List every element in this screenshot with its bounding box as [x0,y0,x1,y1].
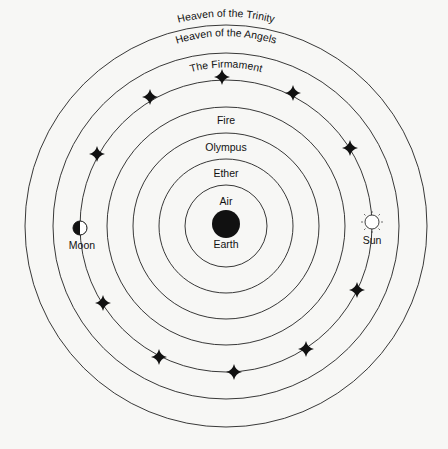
label-angels: Heaven of the Angels [174,26,278,46]
label-air: Air [220,195,233,207]
star-icon [349,282,365,298]
earth-icon [212,210,240,238]
svg-text:The Firmament: The Firmament [188,57,263,74]
label-sun: Sun [363,234,382,246]
star-icon [142,89,158,105]
star-icon [285,85,301,101]
star-icon [298,341,314,357]
moon-icon [73,221,87,235]
label-trinity: Heaven of the Trinity [176,7,277,25]
label-moon: Moon [69,239,95,251]
cosmos-diagram: Heaven of the Trinity Heaven of the Ange… [0,0,448,449]
star-icon [226,364,242,380]
svg-text:Heaven of the Trinity: Heaven of the Trinity [176,7,277,25]
svg-text:Heaven of the Angels: Heaven of the Angels [174,26,278,46]
star-icon [214,69,230,85]
label-ether: Ether [213,167,239,179]
concentric-spheres: Heaven of the Trinity Heaven of the Ange… [0,0,448,449]
label-earth: Earth [213,238,238,250]
star-icon [151,349,167,365]
label-olympus: Olympus [205,141,246,153]
star-icon [95,295,111,311]
star-icon [342,140,358,156]
label-fire: Fire [217,114,235,126]
label-firmament: The Firmament [188,57,263,74]
